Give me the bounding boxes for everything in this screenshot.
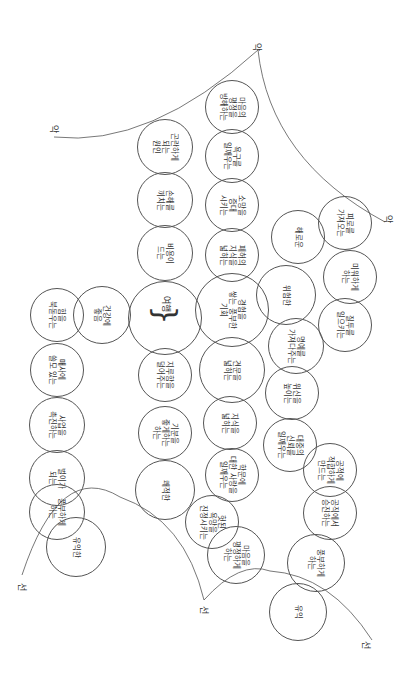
node-label: 공적에 적합하게 만드는 [317, 456, 344, 484]
concept-node: 위험한 [256, 265, 316, 325]
concept-node: 욕구를 일깨우는 [205, 129, 259, 183]
concept-node: 기분을 좋게하는 하는 [138, 406, 192, 460]
concept-node: 견문을 넓히는 [199, 337, 265, 403]
concept-node: 유익 [269, 583, 327, 641]
node-label: 위험한 [282, 285, 291, 306]
node-label: 공직에서 승진하는 [321, 499, 339, 527]
brace-icon: } [150, 305, 180, 324]
node-label: 유익한 [72, 537, 81, 558]
node-label: 폐허의 지식을 넓히는 [219, 245, 246, 266]
node-label: 소망을 증대 시키는 [219, 195, 246, 216]
node-label: 견문을 넓히는 [223, 360, 241, 381]
node-label: 비용이 드는 [156, 243, 174, 264]
node-label: 유익 [294, 605, 303, 619]
node-label: 기분을 좋게하는 하는 [152, 419, 179, 447]
concept-node: 사업을 촉진하는 [29, 397, 85, 453]
center-node: 여행} [128, 281, 202, 355]
node-label: 풍부하게 하는 [307, 549, 325, 577]
diagram-canvas: 여행}건강에 좋음힘을 북돋우는매사에 쓸모 있는사업을 촉진하는벌이가 되는풍… [0, 0, 413, 684]
concept-node: 비용이 드는 [137, 225, 193, 281]
node-label: 명예를 가져다주는 [287, 329, 305, 364]
node-label: 매사에 쓸모 있는 [48, 355, 66, 385]
concept-node: 소망을 증대 시키는 [205, 178, 259, 232]
node-label: 힘을 북돋우는 [48, 301, 66, 329]
node-label: 질투를 일으키는 [336, 311, 354, 339]
evil-curve-label: 악 [48, 125, 61, 133]
concept-node: 유익한 [46, 517, 106, 577]
node-label: 건강에 좋음 [93, 305, 111, 326]
concept-node: 피로를 가져오는 [318, 196, 372, 250]
node-label: 학문에 대한 사랑을 일깨우는 [219, 456, 246, 493]
good-curve-label: 선 [360, 641, 373, 649]
node-label: 지식을 넓히는 [221, 413, 239, 434]
concept-node: 마음의 평정을 방해하는 [205, 80, 259, 134]
node-label: 경험을 쌓는 풍부한 기회 [219, 291, 246, 328]
concept-node: 힘을 북돋우는 [30, 288, 84, 342]
concept-node: 미워하게 하는 [323, 250, 377, 304]
concept-node: 손해를 끼치는 [137, 172, 193, 228]
concept-node: 해로운 [271, 210, 325, 264]
node-label: 곤란하게 되는 원인 [152, 133, 179, 161]
evil-curve-label: 악 [382, 215, 395, 223]
concept-node: 마음을 평정하게 하는 [207, 526, 265, 584]
concept-node: 위신을 높이는 [265, 366, 319, 420]
node-label: 피로를 가져오는 [336, 209, 354, 237]
concept-node: 지루함을 덜어주는 [138, 348, 192, 402]
node-label: 쾌적한 [161, 480, 170, 501]
concept-node: 지식을 넓히는 [203, 396, 257, 450]
node-label: 욕구를 일깨우는 [223, 142, 241, 170]
good-curve-label: 선 [198, 606, 211, 614]
node-label: 해로운 [294, 227, 303, 248]
concept-node: 공직에서 승진하는 [303, 486, 357, 540]
good-curve-label: 선 [16, 583, 29, 591]
node-label: 위신을 높이는 [283, 383, 301, 404]
node-label: 손해를 끼치는 [156, 190, 174, 211]
node-label: 미워하게 하는 [341, 263, 359, 291]
concept-node: 곤란하게 되는 원인 [137, 119, 193, 175]
node-label: 사업을 촉진하는 [48, 411, 66, 439]
node-label: 대중의 신뢰를 일깨우는 [277, 431, 304, 459]
node-label: 지루함을 덜어주는 [156, 361, 174, 389]
concept-node: 질투를 일으키는 [318, 298, 372, 352]
evil-curve-label: 악 [251, 43, 264, 51]
concept-node: 매사에 쓸모 있는 [30, 343, 84, 397]
node-label: 마음을 평정하게 하는 [223, 541, 250, 569]
node-label: 마음의 평정을 방해하는 [219, 93, 246, 121]
concept-node: 학문에 대한 사랑을 일깨우는 [205, 448, 259, 502]
